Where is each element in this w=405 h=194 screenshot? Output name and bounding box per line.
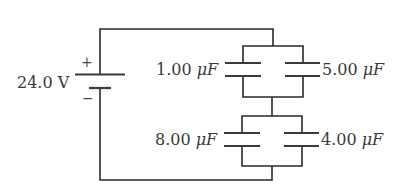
capacitor-1-label: 1.00 μF	[156, 62, 218, 78]
capacitor-2-value: 5.00	[322, 60, 358, 79]
capacitor-3-value: 8.00	[155, 130, 191, 149]
bottom-parallel-group	[224, 116, 319, 166]
circuit-schematic	[0, 0, 405, 194]
capacitor-4-unit: μF	[362, 130, 384, 149]
capacitor-4-label: 4.00 μF	[321, 132, 383, 148]
capacitor-2-label: 5.00 μF	[322, 62, 384, 78]
battery-voltage-label: 24.0 V	[17, 75, 69, 91]
capacitor-3-label: 8.00 μF	[155, 132, 217, 148]
battery-symbol	[75, 75, 125, 89]
capacitor-4-value: 4.00	[321, 130, 357, 149]
capacitor-2-unit: μF	[363, 60, 385, 79]
top-parallel-group	[225, 46, 320, 97]
circuit-diagram: 24.0 V + − 1.00 μF 5.00 μF 8.00 μF 4.00 …	[0, 0, 405, 194]
capacitor-1-value: 1.00	[156, 60, 192, 79]
wires	[100, 29, 273, 180]
capacitor-1-unit: μF	[197, 60, 219, 79]
battery-positive-sign: +	[81, 55, 93, 69]
battery-negative-sign: −	[82, 91, 94, 105]
capacitor-3-unit: μF	[196, 130, 218, 149]
